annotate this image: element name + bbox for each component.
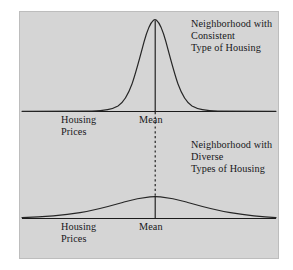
mean-label-diverse: Mean [139, 221, 163, 233]
x-axis-label-diverse: HousingPrices [61, 221, 96, 244]
x-axis-label-diverse-line-1: Housing [61, 221, 96, 232]
curve-diverse [22, 197, 276, 218]
annotation-diverse-line-2: Diverse [191, 151, 223, 162]
annotation-consistent-line-3: Type of Housing [191, 42, 261, 53]
chart-diverse [22, 197, 276, 219]
x-axis-label-diverse-line-2: Prices [61, 233, 96, 245]
mean-label-consistent: Mean [139, 114, 163, 126]
annotation-consistent: Neighborhood withConsistentType of Housi… [191, 18, 272, 55]
annotation-consistent-line-2: Consistent [191, 30, 235, 41]
annotation-diverse-line-1: Neighborhood with [191, 139, 272, 150]
annotation-diverse-line-3: Types of Housing [191, 163, 265, 174]
figure-container: Neighborhood withConsistentType of Housi… [0, 0, 293, 270]
annotation-consistent-line-1: Neighborhood with [191, 18, 272, 29]
x-axis-label-consistent-line-2: Prices [61, 126, 96, 138]
x-axis-label-consistent: HousingPrices [61, 114, 96, 137]
x-axis-label-consistent-line-1: Housing [61, 114, 96, 125]
annotation-diverse: Neighborhood withDiverseTypes of Housing [191, 139, 272, 176]
